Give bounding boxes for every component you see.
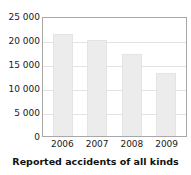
y-axis-tick-label: 20 000: [0, 36, 40, 46]
y-axis: 25 000 20 000 15 000 10 000 5 000 0: [0, 17, 40, 137]
bar-series: [43, 18, 186, 136]
x-axis: 2006 2007 2008 2009: [42, 139, 187, 152]
x-axis-tick-label: 2008: [117, 139, 147, 150]
bar-2009: [156, 73, 176, 136]
bar-2007: [87, 40, 107, 136]
y-axis-tick-label: 0: [0, 132, 40, 142]
bar-2006: [53, 34, 73, 136]
bar-2008: [122, 54, 142, 136]
x-axis-tick-label: 2009: [152, 139, 182, 150]
y-axis-tick-label: 25 000: [0, 12, 40, 22]
x-axis-tick-label: 2007: [82, 139, 112, 150]
x-axis-tick-label: 2006: [47, 139, 77, 150]
chart-title: Reported accidents of all kinds: [0, 156, 191, 168]
y-axis-tick-label: 5 000: [0, 108, 40, 118]
y-axis-tick-label: 10 000: [0, 84, 40, 94]
bar-chart: 25 000 20 000 15 000 10 000 5 000 0 2006…: [0, 0, 191, 175]
plot-area: [42, 17, 187, 137]
y-axis-tick-label: 15 000: [0, 60, 40, 70]
